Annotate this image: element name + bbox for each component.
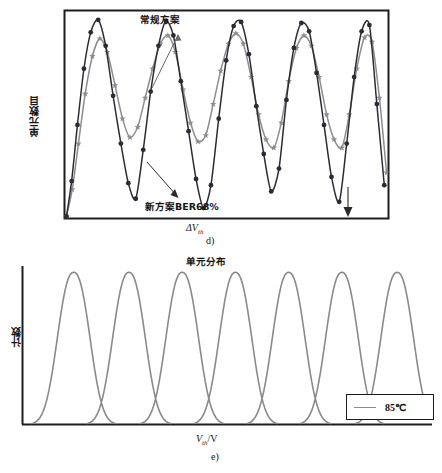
series-marker-circle bbox=[246, 52, 251, 57]
x-axis-title-e: Vth/V bbox=[196, 433, 218, 447]
series-marker-circle bbox=[69, 179, 74, 184]
x-axis-title-d-sub: th bbox=[198, 228, 203, 236]
series-marker-circle bbox=[186, 129, 191, 134]
series-marker-circle bbox=[209, 183, 214, 188]
legend-line-swatch bbox=[354, 407, 376, 408]
series-marker-circle bbox=[156, 43, 161, 48]
y-axis-title-e: 计数 bbox=[9, 326, 24, 347]
annotation-new-scheme-label: 新方案BER68% bbox=[145, 199, 219, 213]
series-marker-circle bbox=[277, 166, 282, 171]
chart-title-e: 单元分布 bbox=[186, 254, 226, 268]
series-marker-circle bbox=[88, 30, 93, 35]
legend-box-e: 85℃ bbox=[346, 394, 434, 420]
series-marker-circle bbox=[171, 33, 176, 38]
series-marker-circle bbox=[194, 177, 199, 182]
x-axis-title-d-main: ΔV bbox=[186, 222, 198, 233]
series-marker-circle bbox=[329, 175, 334, 180]
legend-label-temperature: 85℃ bbox=[385, 402, 406, 413]
series-marker-circle bbox=[254, 104, 259, 109]
panel-caption-e: e) bbox=[211, 451, 219, 462]
series-marker-circle bbox=[337, 199, 342, 204]
series-marker-circle bbox=[231, 24, 236, 29]
series-marker-circle bbox=[178, 79, 183, 84]
series-marker-circle bbox=[261, 152, 266, 157]
series-marker-circle bbox=[359, 29, 364, 34]
series-marker-circle bbox=[299, 21, 304, 26]
series-marker-circle bbox=[126, 181, 131, 186]
series-marker-circle bbox=[307, 29, 312, 34]
series-marker-circle bbox=[314, 71, 319, 76]
series-marker-circle bbox=[367, 23, 372, 28]
panel-caption-d: d) bbox=[206, 235, 214, 246]
plot-frame-d bbox=[65, 11, 389, 219]
series-marker-circle bbox=[382, 183, 387, 188]
series-marker-circle bbox=[133, 196, 138, 201]
figure-e-panel: 单元分布 计数 Vth/V e) bbox=[0, 248, 442, 473]
series-marker-circle bbox=[352, 75, 357, 80]
series-marker-circle bbox=[148, 89, 153, 94]
figure-d-panel: 单元数目 常规方案 新方案BER68% ΔVth d) bbox=[0, 0, 442, 250]
series-marker-circle bbox=[291, 46, 296, 51]
x-axis-title-d: ΔVth bbox=[186, 222, 203, 236]
series-marker-circle bbox=[224, 58, 229, 63]
series-marker-circle bbox=[344, 141, 349, 146]
series-marker-circle bbox=[111, 93, 116, 98]
y-axis-title-d: 单元数目 bbox=[27, 95, 42, 137]
series-marker-circle bbox=[75, 123, 80, 128]
series-marker-circle bbox=[269, 189, 274, 194]
series-marker-circle bbox=[284, 98, 289, 103]
series-marker-circle bbox=[141, 147, 146, 152]
figure-e-plot bbox=[0, 248, 442, 473]
series-marker-circle bbox=[103, 43, 108, 48]
figure-d-plot bbox=[0, 0, 442, 250]
series-marker-circle bbox=[374, 102, 379, 107]
annotation-conventional-label: 常规方案 bbox=[140, 12, 180, 26]
series-marker-circle bbox=[96, 17, 101, 22]
series-marker-circle bbox=[239, 20, 244, 25]
series-marker-circle bbox=[216, 116, 221, 121]
series-marker-circle bbox=[82, 66, 87, 71]
x-axis-title-e-unit: /V bbox=[208, 433, 218, 444]
series-marker-circle bbox=[322, 123, 327, 128]
series-marker-circle bbox=[64, 214, 69, 219]
series-marker-circle bbox=[118, 141, 123, 146]
